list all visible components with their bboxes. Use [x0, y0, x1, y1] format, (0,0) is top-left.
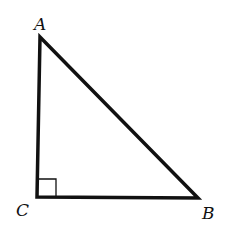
vertex-label-c: C: [16, 200, 29, 220]
vertex-label-b: B: [201, 203, 215, 223]
triangle-abc: [37, 37, 198, 198]
vertex-label-a: A: [32, 14, 46, 34]
triangle-diagram: A B C: [0, 0, 231, 239]
diagram-canvas: A B C: [0, 0, 231, 239]
right-angle-marker: [38, 179, 56, 196]
